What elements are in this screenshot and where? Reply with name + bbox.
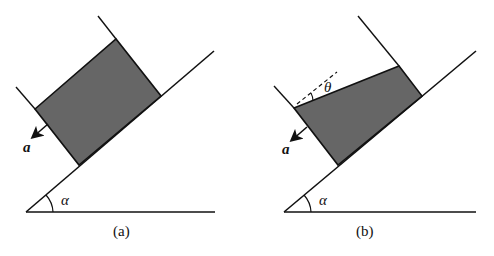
caption-a: (a) <box>113 223 130 240</box>
caption-b: (b) <box>356 223 374 240</box>
angle-alpha-label: α <box>319 192 328 208</box>
angle-alpha-label: α <box>61 192 70 208</box>
container-wall-left <box>16 87 35 109</box>
angle-theta-label: θ <box>324 79 332 95</box>
panel-a: a α (a) <box>16 16 215 240</box>
panel-b: θ a α (b) <box>274 16 476 240</box>
angle-arc <box>304 195 311 212</box>
container-wall-right <box>98 16 116 39</box>
diagram-canvas: a α (a) θ a α (b) <box>0 0 494 256</box>
fluid-block <box>35 39 161 165</box>
acceleration-arrow <box>292 127 307 140</box>
acceleration-label: a <box>282 141 290 157</box>
acceleration-arrow <box>33 124 48 137</box>
theta-arc <box>311 93 313 101</box>
container-wall-right <box>358 16 399 66</box>
angle-arc <box>46 195 53 212</box>
acceleration-label: a <box>23 139 31 155</box>
container-wall-left <box>274 86 294 108</box>
